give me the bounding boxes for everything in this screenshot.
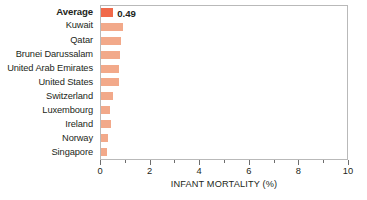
category-label-switzerland: Switzerland [0,90,97,104]
x-axis-major-tick [100,160,101,165]
category-axis-labels: Average Kuwait Qatar Brunei Darussalam U… [0,5,97,160]
bar-kuwait [101,23,123,31]
category-label-ireland: Ireland [0,118,97,132]
x-axis-major-tick [348,160,349,165]
x-axis-tick-label: 2 [147,166,152,176]
bar-row [101,117,347,131]
category-label-kuwait: Kuwait [0,19,97,33]
x-axis-tick-label: 4 [197,166,202,176]
x-axis-tick-label: 6 [246,166,251,176]
bar-average: 0.49 [101,8,113,17]
bar-row: 0.49 [101,6,347,20]
bar-row [101,62,347,76]
x-axis-major-tick [298,160,299,165]
x-axis-minor-tick [125,160,126,163]
category-label-united-states: United States [0,75,97,89]
bar-row [101,89,347,103]
bar-row [101,131,347,145]
bar-row [101,48,347,62]
x-axis-major-tick [150,160,151,165]
x-axis: 0246810 INFANT MORTALITY (%) [100,160,348,200]
infant-mortality-bar-chart: Average Kuwait Qatar Brunei Darussalam U… [0,0,367,200]
x-axis-tick-label: 0 [97,166,102,176]
bar-luxembourg [101,106,110,114]
bars-container: 0.49 [101,6,347,159]
x-axis-minor-tick [174,160,175,163]
x-axis-tick-label: 8 [296,166,301,176]
category-label-qatar: Qatar [0,33,97,47]
bar-qatar [101,37,121,45]
category-label-luxembourg: Luxembourg [0,104,97,118]
x-axis-title: INFANT MORTALITY (%) [100,179,348,189]
x-axis-minor-tick [224,160,225,163]
bar-switzerland [101,92,113,100]
bar-row [101,145,347,159]
x-axis-major-tick [199,160,200,165]
category-label-singapore: Singapore [0,146,97,160]
bar-brunei-darussalam [101,51,120,59]
x-axis-major-tick [249,160,250,165]
bar-row [101,103,347,117]
bar-norway [101,134,108,142]
bar-row [101,34,347,48]
x-axis-tick-label: 10 [343,166,353,176]
bar-singapore [101,148,107,156]
bar-value-label: 0.49 [117,7,136,18]
bar-row [101,76,347,90]
bar-united-arab-emirates [101,65,119,73]
category-label-average: Average [0,5,97,19]
plot-area: 0.49 [100,5,348,160]
bar-ireland [101,120,111,128]
category-label-united-arab-emirates: United Arab Emirates [0,61,97,75]
x-axis-minor-tick [274,160,275,163]
x-axis-minor-tick [323,160,324,163]
category-label-brunei-darussalam: Brunei Darussalam [0,47,97,61]
bar-united-states [101,78,119,86]
category-label-norway: Norway [0,132,97,146]
bar-row [101,20,347,34]
